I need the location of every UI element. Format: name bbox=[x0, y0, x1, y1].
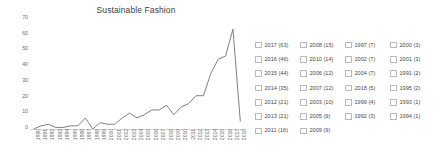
year-filter-label: 2009 (9) bbox=[310, 127, 331, 134]
checkbox-icon[interactable] bbox=[255, 113, 262, 120]
year-filter-label: 1992 (3) bbox=[355, 113, 376, 120]
checkbox-icon[interactable] bbox=[300, 113, 307, 120]
year-filter-item-2007[interactable]: 2007 (12) bbox=[300, 81, 345, 95]
x-axis-tick: 1993 bbox=[58, 129, 64, 140]
year-filter-item-1999[interactable]: 1999 (4) bbox=[345, 95, 390, 109]
x-axis-tick: 2015 bbox=[220, 129, 226, 140]
x-axis-tick: 2004 bbox=[139, 129, 145, 140]
checkbox-icon[interactable] bbox=[300, 85, 307, 92]
y-axis-tick: 70 bbox=[22, 14, 28, 20]
y-axis-tick: 0 bbox=[25, 124, 28, 130]
year-filter-item-2014[interactable]: 2014 (35) bbox=[255, 81, 300, 95]
year-filter-item-2018[interactable]: 2018 (5) bbox=[345, 81, 390, 95]
x-axis-tick: 2011 bbox=[191, 129, 197, 140]
x-axis-tick: 2006 bbox=[154, 129, 160, 140]
x-axis-tick: 2001 bbox=[117, 129, 123, 140]
checkbox-icon[interactable] bbox=[345, 113, 352, 120]
year-filter-label: 1999 (4) bbox=[355, 99, 376, 106]
checkbox-icon[interactable] bbox=[300, 99, 307, 106]
year-filter-item-2016[interactable]: 2016 (46) bbox=[255, 52, 300, 66]
year-filter-item-2000[interactable]: 2000 (3) bbox=[390, 38, 435, 52]
x-axis-tick: 1992 bbox=[50, 129, 56, 140]
checkbox-icon[interactable] bbox=[345, 56, 352, 63]
checkbox-icon[interactable] bbox=[300, 56, 307, 63]
year-filter-label: 2012 (21) bbox=[265, 99, 289, 106]
y-axis-tick: 30 bbox=[22, 77, 28, 83]
year-filter-label: 2008 (15) bbox=[310, 42, 334, 49]
year-filter-item-1997[interactable]: 1997 (7) bbox=[345, 38, 390, 52]
year-filter-label: 1993 (1) bbox=[400, 99, 421, 106]
year-filter-label: 2001 (3) bbox=[400, 56, 421, 63]
year-filter-item-1991[interactable]: 1991 (2) bbox=[390, 67, 435, 81]
year-filter-item-2011[interactable]: 2011 (16) bbox=[255, 124, 300, 138]
year-filter-label: 2013 (21) bbox=[265, 113, 289, 120]
checkbox-icon[interactable] bbox=[255, 85, 262, 92]
x-axis-tick: 1990 bbox=[36, 129, 42, 140]
x-axis-tick: 1995 bbox=[73, 129, 79, 140]
x-axis-tick: 2007 bbox=[161, 129, 167, 140]
year-filter-label: 2015 (44) bbox=[265, 70, 289, 77]
year-filter-item-2002[interactable]: 2002 (7) bbox=[345, 52, 390, 66]
year-filter-item-2001[interactable]: 2001 (3) bbox=[390, 52, 435, 66]
year-filter-item-1995[interactable]: 1995 (2) bbox=[390, 81, 435, 95]
x-axis-tick: 2005 bbox=[146, 129, 152, 140]
x-axis-tick: 1998 bbox=[95, 129, 101, 140]
year-filter-item-2004[interactable]: 2004 (7) bbox=[345, 67, 390, 81]
checkbox-icon[interactable] bbox=[390, 99, 397, 106]
x-axis-tick: 2018 bbox=[242, 129, 248, 140]
checkbox-icon[interactable] bbox=[345, 70, 352, 77]
checkbox-icon[interactable] bbox=[345, 99, 352, 106]
checkbox-icon[interactable] bbox=[390, 42, 397, 49]
year-filter-item-2015[interactable]: 2015 (44) bbox=[255, 67, 300, 81]
checkbox-icon[interactable] bbox=[255, 70, 262, 77]
checkbox-icon[interactable] bbox=[390, 113, 397, 120]
checkbox-icon[interactable] bbox=[345, 42, 352, 49]
checkbox-icon[interactable] bbox=[255, 99, 262, 106]
y-axis-tick: 60 bbox=[22, 30, 28, 36]
year-filter-item-2012[interactable]: 2012 (21) bbox=[255, 95, 300, 109]
x-axis-tick: 1991 bbox=[43, 129, 49, 140]
checkbox-icon[interactable] bbox=[255, 128, 262, 135]
year-filter-label: 2006 (12) bbox=[310, 70, 334, 77]
checkbox-icon[interactable] bbox=[300, 128, 307, 135]
checkbox-icon[interactable] bbox=[255, 42, 262, 49]
year-filter-label: 2016 (46) bbox=[265, 56, 289, 63]
data-line bbox=[34, 29, 241, 129]
year-filter-label: 2014 (35) bbox=[265, 85, 289, 92]
year-filter-label: 2004 (7) bbox=[355, 70, 376, 77]
year-filter-item-1992[interactable]: 1992 (3) bbox=[345, 109, 390, 123]
chart-widget: Sustainable Fashion 706050403020100 1990… bbox=[0, 0, 448, 153]
legend-column: 2017 (63)2016 (46)2015 (44)2014 (35)2012… bbox=[255, 38, 300, 148]
x-axis-tick: 2013 bbox=[205, 129, 211, 140]
year-filter-label: 2007 (12) bbox=[310, 85, 334, 92]
year-filter-label: 2002 (7) bbox=[355, 56, 376, 63]
checkbox-icon[interactable] bbox=[345, 85, 352, 92]
year-filter-item-2009[interactable]: 2009 (9) bbox=[300, 124, 345, 138]
checkbox-icon[interactable] bbox=[300, 70, 307, 77]
checkbox-icon[interactable] bbox=[255, 56, 262, 63]
year-filter-label: 2010 (14) bbox=[310, 56, 334, 63]
x-axis-tick: 2002 bbox=[124, 129, 130, 140]
year-filter-item-2017[interactable]: 2017 (63) bbox=[255, 38, 300, 52]
year-filter-item-1994[interactable]: 1994 (1) bbox=[390, 109, 435, 123]
year-filter-item-2006[interactable]: 2006 (12) bbox=[300, 67, 345, 81]
x-axis-tick: 2017 bbox=[235, 129, 241, 140]
checkbox-icon[interactable] bbox=[390, 56, 397, 63]
year-filter-item-2010[interactable]: 2010 (14) bbox=[300, 52, 345, 66]
year-filter-label: 2011 (16) bbox=[265, 127, 289, 134]
checkbox-icon[interactable] bbox=[390, 85, 397, 92]
y-axis-tick: 50 bbox=[22, 45, 28, 51]
year-filter-label: 2005 (9) bbox=[310, 113, 331, 120]
y-axis-tick: 10 bbox=[22, 108, 28, 114]
checkbox-icon[interactable] bbox=[300, 42, 307, 49]
year-filter-label: 1991 (2) bbox=[400, 70, 421, 77]
year-filter-item-2008[interactable]: 2008 (15) bbox=[300, 38, 345, 52]
year-filter-item-1993[interactable]: 1993 (1) bbox=[390, 95, 435, 109]
checkbox-icon[interactable] bbox=[390, 70, 397, 77]
year-filter-item-2013[interactable]: 2013 (21) bbox=[255, 109, 300, 123]
chart-title: Sustainable Fashion bbox=[66, 5, 206, 15]
year-filter-legend: 2017 (63)2016 (46)2015 (44)2014 (35)2012… bbox=[255, 38, 448, 148]
year-filter-item-2003[interactable]: 2003 (10) bbox=[300, 95, 345, 109]
year-filter-item-2005[interactable]: 2005 (9) bbox=[300, 109, 345, 123]
year-filter-label: 2000 (3) bbox=[400, 42, 421, 49]
